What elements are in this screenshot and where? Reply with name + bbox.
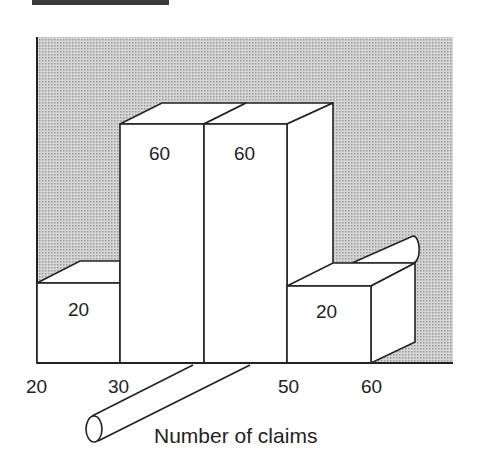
bar-value-label: 20: [316, 301, 337, 322]
header-bar: [32, 0, 169, 5]
histogram-chart: 20 60 60 20 20 30 50 60 Number of claims: [0, 0, 478, 462]
bar-value-label: 60: [234, 143, 255, 164]
bar-value-label: 20: [68, 299, 89, 320]
bar-value-label: 60: [149, 143, 170, 164]
x-tick-label: 50: [278, 376, 299, 397]
x-tick-label: 30: [108, 376, 129, 397]
x-axis-title: Number of claims: [154, 424, 317, 447]
x-tick-label: 20: [26, 376, 47, 397]
x-tick-label: 60: [361, 376, 382, 397]
bar-50-60: [287, 263, 415, 363]
